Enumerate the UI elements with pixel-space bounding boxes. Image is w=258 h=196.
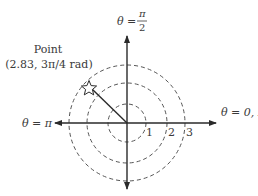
radius-label-2: 2 (168, 126, 175, 139)
point-coords-label: (2.83, 3π/4 rad) (5, 58, 92, 71)
radius-label-1: 1 (146, 126, 153, 139)
polar-diagram: 1 2 3 θ = π 2 θ = π θ = 0, 2π Point (2.8… (0, 0, 258, 196)
left-axis-label: θ = π (22, 117, 53, 130)
star-icon (81, 81, 96, 95)
top-axis-label-numerator: π (138, 8, 146, 19)
radius-label-3: 3 (186, 126, 193, 139)
point-title: Point (34, 43, 63, 56)
point-radius-line (92, 89, 127, 123)
top-axis-label-denominator: 2 (139, 22, 145, 33)
right-axis-label: θ = 0, 2π (221, 106, 258, 119)
top-axis-label-theta: θ = (117, 15, 136, 28)
